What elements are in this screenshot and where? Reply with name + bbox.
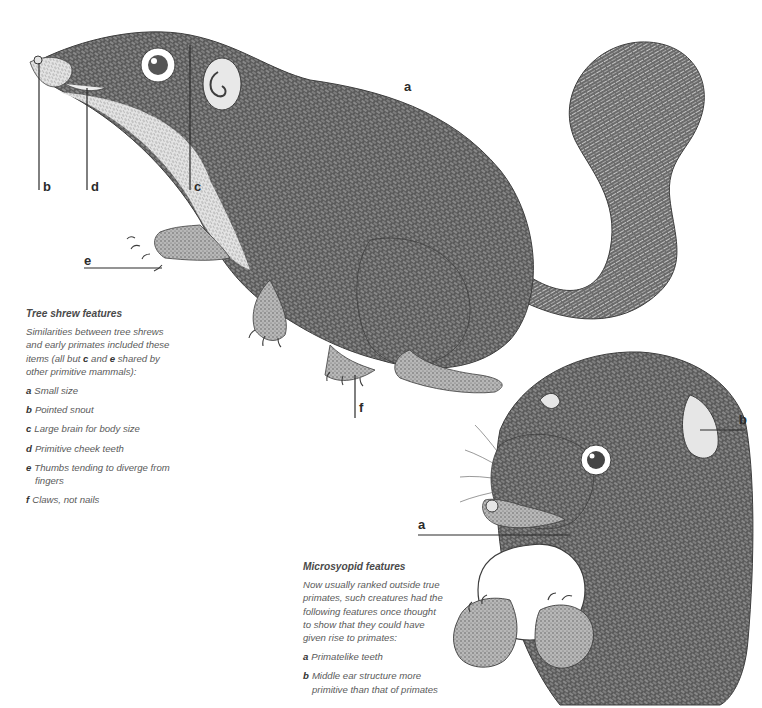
microsyopid-illustration [454, 352, 753, 705]
tree-shrew-nose [34, 56, 42, 64]
feature-item: fClaws, not nails [26, 493, 176, 506]
feature-item: cLarge brain for body size [26, 422, 176, 435]
tree-shrew-ear [203, 58, 241, 110]
label-tree-shrew-d: d [91, 180, 99, 193]
tree-shrew-caption-intro: Similarities between tree shrews and ear… [26, 325, 176, 378]
label-tree-shrew-c: c [194, 180, 201, 193]
microsyopid-eye [581, 445, 611, 475]
label-tree-shrew-a: a [404, 80, 411, 93]
label-microsyopid-a: a [418, 518, 425, 531]
feature-item: aPrimatelike teeth [303, 650, 443, 663]
feature-item: bPointed snout [26, 403, 176, 416]
microsyopid-body [496, 352, 753, 705]
microsyopid-feature-list: aPrimatelike teeth bMiddle ear structure… [303, 650, 443, 696]
tree-shrew-caption-title: Tree shrew features [26, 307, 176, 320]
tree-shrew-feature-list: aSmall size bPointed snout cLarge brain … [26, 384, 176, 506]
microsyopid-caption-title: Microsyopid features [303, 560, 443, 573]
tree-shrew-caption: Tree shrew features Similarities between… [26, 307, 176, 512]
feature-item: eThumbs tending to diverge from fingers [26, 461, 176, 487]
label-microsyopid-b: b [739, 413, 747, 426]
label-tree-shrew-b: b [43, 180, 51, 193]
microsyopid-caption-intro: Now usually ranked outside true primates… [303, 578, 443, 644]
feature-item: dPrimitive cheek teeth [26, 442, 176, 455]
label-tree-shrew-e: e [84, 254, 91, 267]
feature-item: bMiddle ear structure more primitive tha… [303, 669, 443, 695]
tree-shrew-tail [520, 42, 704, 319]
label-tree-shrew-f: f [359, 401, 363, 414]
microsyopid-caption: Microsyopid features Now usually ranked … [303, 560, 443, 702]
microsyopid-hands [454, 598, 517, 667]
tree-shrew-eye [141, 48, 175, 82]
feature-item: aSmall size [26, 384, 176, 397]
